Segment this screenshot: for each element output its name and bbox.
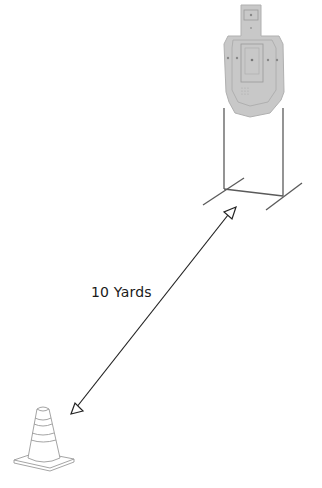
traffic-cone-icon [14,407,74,471]
distance-arrow-icon [71,207,236,414]
target-stand-icon [203,108,302,210]
range-diagram [0,0,322,488]
distance-label: 10 Yards [91,284,152,300]
steel-target-icon [224,5,284,117]
